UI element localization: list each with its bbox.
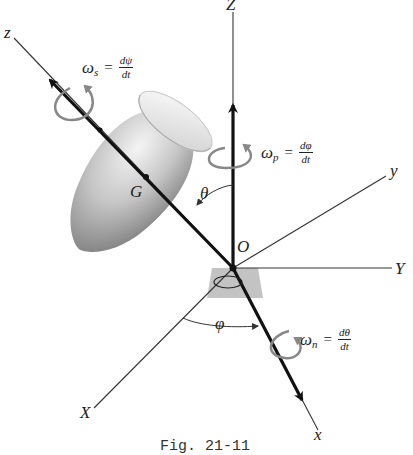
origin-dot xyxy=(230,265,237,272)
equation-nutation: ωn = dθdt xyxy=(300,327,351,352)
precession-rotation-icon xyxy=(209,145,251,168)
label-axis-X: X xyxy=(80,404,90,421)
label-axis-y: y xyxy=(390,162,398,179)
figure-caption: Fig. 21-11 xyxy=(160,438,250,455)
label-phi: φ xyxy=(215,315,224,332)
label-axis-Y: Y xyxy=(395,260,404,277)
label-axis-z: z xyxy=(4,24,11,41)
label-center-of-mass: G xyxy=(130,183,142,200)
label-origin: O xyxy=(237,238,249,255)
equation-precession: ωp = dφdt xyxy=(261,140,313,165)
label-axis-Z: Z xyxy=(226,0,235,13)
equation-spin: ωs = dψdt xyxy=(82,55,133,80)
axis-y xyxy=(233,176,386,268)
nutation-rotation-icon xyxy=(271,331,301,358)
spin-axis-dot xyxy=(98,128,103,133)
center-of-mass-dot xyxy=(143,174,149,180)
top-body xyxy=(43,80,223,277)
axis-X xyxy=(94,268,233,408)
label-theta: θ xyxy=(200,185,208,202)
label-axis-x: x xyxy=(314,426,322,443)
omega-n-vector xyxy=(233,268,302,400)
top-diagram xyxy=(0,0,413,455)
